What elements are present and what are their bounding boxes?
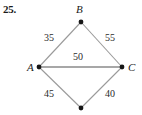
edge-weight-a-b: 35 xyxy=(44,33,54,43)
vertex-label-b: B xyxy=(76,4,83,15)
weighted-graph-diagram xyxy=(0,0,142,115)
edge-d-c xyxy=(81,67,122,108)
edge-weight-d-c: 40 xyxy=(105,89,115,99)
vertex-a xyxy=(37,65,42,70)
edge-weight-a-d: 45 xyxy=(44,89,54,99)
edge-b-c xyxy=(81,22,122,67)
vertex-label-a: A xyxy=(27,62,34,73)
edge-weight-a-c: 50 xyxy=(73,52,83,62)
edge-weight-b-c: 55 xyxy=(105,33,115,43)
vertex-c xyxy=(120,65,125,70)
vertex-d xyxy=(79,106,84,111)
vertex-label-c: C xyxy=(128,62,135,73)
figure-container: 25. B A C 35 55 50 45 40 xyxy=(0,0,142,115)
vertex-b xyxy=(79,20,84,25)
